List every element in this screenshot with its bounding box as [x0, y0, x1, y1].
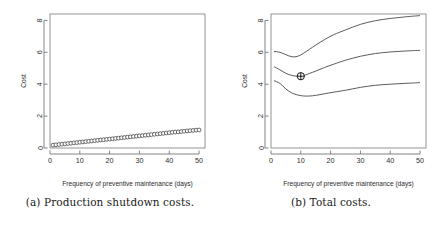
plot-frame: [271, 14, 426, 148]
x-axis-tick-label: 10: [297, 156, 305, 165]
y-axis-tick-label: 6: [36, 50, 45, 54]
caption-b: (b) Total costs.: [221, 196, 441, 208]
y-axis-title: Cost: [20, 74, 27, 88]
plot-area-b: 0102030405002468Frequency of preventive …: [221, 0, 441, 190]
y-axis-tick-label: 6: [257, 50, 266, 54]
subfigure-a: 0102030405002468Frequency of preventive …: [0, 0, 220, 229]
x-axis-tick-label: 30: [135, 156, 143, 165]
x-axis-tick-label: 20: [327, 156, 335, 165]
y-axis-tick-label: 4: [36, 82, 45, 86]
figure-container: 0102030405002468Frequency of preventive …: [0, 0, 441, 229]
y-axis-tick-label: 0: [36, 146, 45, 150]
x-axis-tick-label: 0: [269, 156, 273, 165]
x-axis-tick-label: 30: [356, 156, 364, 165]
x-axis-tick-label: 40: [386, 156, 394, 165]
x-axis-title: Frequency of preventive maintenance (day…: [62, 180, 192, 188]
y-axis-tick-label: 2: [257, 114, 266, 118]
data-curve: [274, 81, 420, 96]
y-axis-tick-label: 4: [257, 82, 266, 86]
data-point: [197, 128, 201, 132]
optimum-marker-icon: [297, 73, 304, 80]
scatter-plot-production-shutdown-costs: 0102030405002468Frequency of preventive …: [0, 0, 220, 190]
plot-frame: [50, 14, 205, 148]
subfigure-b: 0102030405002468Frequency of preventive …: [221, 0, 441, 229]
x-axis-tick-label: 50: [195, 156, 203, 165]
x-axis-tick-label: 10: [76, 156, 84, 165]
plot-area-a: 0102030405002468Frequency of preventive …: [0, 0, 220, 190]
x-axis-tick-label: 0: [48, 156, 52, 165]
x-axis-tick-label: 50: [416, 156, 424, 165]
data-curve: [274, 16, 420, 57]
y-axis-tick-label: 8: [36, 18, 45, 22]
y-axis-tick-label: 2: [36, 114, 45, 118]
x-axis-title: Frequency of preventive maintenance (day…: [283, 180, 413, 188]
x-axis-tick-label: 20: [106, 156, 114, 165]
y-axis-tick-label: 0: [257, 146, 266, 150]
line-plot-total-costs: 0102030405002468Frequency of preventive …: [221, 0, 441, 190]
caption-a: (a) Production shutdown costs.: [0, 196, 220, 208]
y-axis-tick-label: 8: [257, 18, 266, 22]
x-axis-tick-label: 40: [165, 156, 173, 165]
y-axis-title: Cost: [241, 74, 248, 88]
data-curve: [274, 50, 420, 76]
